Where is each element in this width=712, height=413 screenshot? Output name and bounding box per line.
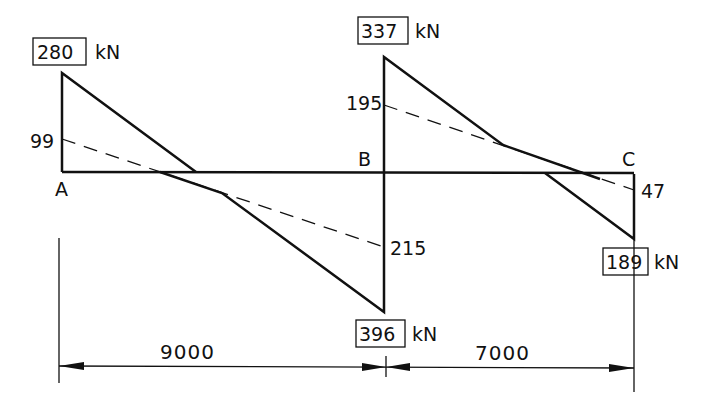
arrow-right-c <box>609 364 634 372</box>
unit-label: kN <box>654 251 679 273</box>
boxed-value-a-top: 280 kN <box>33 38 120 65</box>
support-label-c: C <box>622 148 635 170</box>
unit-label: kN <box>415 20 440 42</box>
arrow-b-right <box>386 363 410 371</box>
svg-text:396: 396 <box>359 323 395 345</box>
unit-label: kN <box>95 41 120 63</box>
shear-curve-span-bc-negative <box>545 173 634 239</box>
span-length-ab: 9000 <box>160 340 215 364</box>
boxed-value-b-top: 337 kN <box>358 17 440 44</box>
span-length-bc: 7000 <box>475 341 530 365</box>
shear-curve-span-ab <box>62 73 196 172</box>
value-c-dashed: 47 <box>641 180 665 202</box>
dashed-line-ab <box>62 139 384 247</box>
svg-text:189: 189 <box>606 251 642 273</box>
value-b-dashed-bottom: 215 <box>390 237 426 259</box>
shear-force-diagram: A B C 99 195 215 47 280 kN 337 kN 396 kN… <box>0 0 712 413</box>
boxed-value-c-bottom: 189 kN <box>603 248 679 275</box>
beam-baseline <box>62 172 634 173</box>
support-label-b: B <box>358 148 371 170</box>
arrow-b-left <box>362 363 386 371</box>
unit-label: kN <box>412 323 437 345</box>
svg-text:337: 337 <box>361 20 397 42</box>
dimension-line <box>59 366 634 368</box>
value-b-dashed-top: 195 <box>346 92 382 114</box>
svg-text:280: 280 <box>37 41 73 63</box>
boxed-value-b-bottom: 396 kN <box>356 320 437 347</box>
arrow-left-a <box>59 362 84 370</box>
support-label-a: A <box>55 178 68 200</box>
value-a-dashed: 99 <box>30 130 54 152</box>
